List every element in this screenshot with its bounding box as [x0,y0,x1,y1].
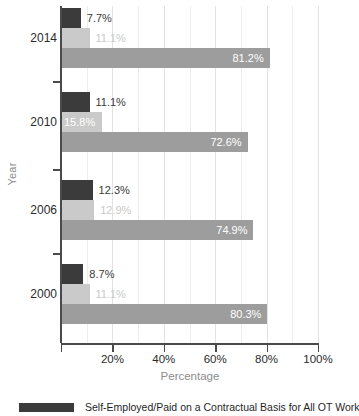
x-axis-tick-label: 60% [192,353,238,365]
bar-value-label: 7.7% [87,8,112,28]
bar [61,180,93,200]
y-axis-tick-label: 2000 [3,287,57,301]
x-axis-tick-label: 80% [244,353,290,365]
x-axis-tick [215,345,216,352]
x-axis-tick [112,345,113,352]
bar [61,264,83,284]
x-axis-tick [61,345,62,352]
chart-legend: Self-Employed/Paid on a Contractual Basi… [0,400,333,414]
legend-swatch [19,403,74,412]
group-separator-tick [53,253,62,255]
group-separator-tick [53,169,62,171]
gridline [292,6,293,343]
x-axis-line [61,343,319,345]
bar [61,28,90,48]
y-axis-tick-label: 2006 [3,203,57,217]
bar [61,8,81,28]
bar-value-label: 12.9% [100,200,131,220]
bar [61,284,90,304]
x-axis-tick-label: 100% [295,353,341,365]
bar-value-label: 74.9% [205,220,247,240]
x-axis-tick-label: 20% [89,353,135,365]
y-axis-tick-label: 2014 [3,31,57,45]
bar-value-label: 12.3% [99,180,130,200]
x-axis-tick [318,345,319,352]
bar-value-label: 15.8% [64,112,95,132]
group-separator-tick [53,81,62,83]
plot-area: 7.7%11.1%81.2%11.1%15.8%72.6%12.3%12.9%7… [61,6,318,343]
bar [61,200,94,220]
bar [61,92,90,112]
x-axis-tick [267,345,268,352]
bar-value-label: 11.1% [96,284,126,304]
y-axis-tick-labels: 2014201020062000 [0,0,57,416]
x-axis-tick [164,345,165,352]
bar-value-label: 11.1% [96,92,126,112]
x-axis-title: Percentage [61,370,319,382]
y-axis-tick-label: 2010 [3,115,57,129]
x-axis-tick-label: 40% [141,353,187,365]
legend-label: Self-Employed/Paid on a Contractual Basi… [85,401,359,413]
bar-value-label: 72.6% [200,132,242,152]
gridline [318,6,319,343]
bar-value-label: 8.7% [89,264,114,284]
bar-value-label: 11.1% [96,28,126,48]
bar-value-label: 81.2% [222,48,264,68]
bar-value-label: 80.3% [219,304,261,324]
legend-item: Self-Employed/Paid on a Contractual Basi… [0,400,333,414]
y-axis-line [60,6,62,343]
